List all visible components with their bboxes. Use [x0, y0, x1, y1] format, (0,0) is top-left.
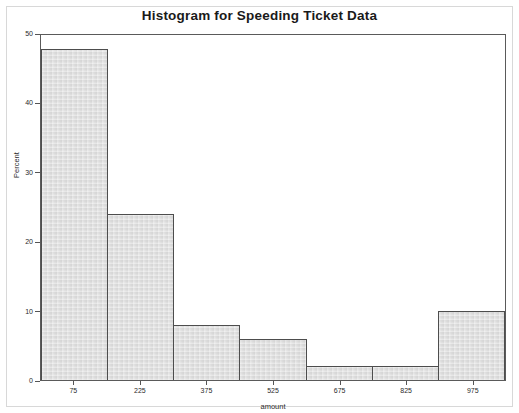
x-tick: 975: [439, 381, 506, 401]
chart-title: Histogram for Speeding Ticket Data: [0, 8, 519, 23]
x-tick-mark: [473, 381, 474, 385]
x-tick: 225: [107, 381, 174, 401]
x-tick: 375: [173, 381, 240, 401]
x-tick: 75: [40, 381, 107, 401]
y-axis: 0 10 20 30 40 50: [0, 34, 40, 381]
x-tick-mark: [140, 381, 141, 385]
y-tick-label: 50: [25, 29, 33, 38]
x-tick-label: 525: [240, 387, 307, 394]
x-tick-label: 975: [439, 387, 506, 394]
x-tick-group: 75 225 375 525 675 825: [40, 381, 506, 401]
histogram-bar: [173, 325, 240, 380]
x-tick-mark: [73, 381, 74, 385]
x-tick-mark: [406, 381, 407, 385]
y-tick-label: 10: [25, 307, 33, 316]
x-tick-mark: [206, 381, 207, 385]
plot-inner: [41, 35, 505, 380]
y-tick-label: 0: [29, 376, 33, 385]
x-tick: 675: [306, 381, 373, 401]
histogram-bars: [41, 35, 505, 380]
x-tick: 825: [373, 381, 440, 401]
histogram-bar: [107, 214, 174, 380]
x-tick-label: 225: [107, 387, 174, 394]
x-tick-label: 375: [173, 387, 240, 394]
y-tick-label: 40: [25, 98, 33, 107]
plot-area: [40, 34, 506, 381]
x-tick: 525: [240, 381, 307, 401]
histogram-bar: [41, 49, 108, 380]
y-tick-label: 30: [25, 168, 33, 177]
x-tick-label: 825: [373, 387, 440, 394]
x-tick-mark: [340, 381, 341, 385]
histogram-figure: Histogram for Speeding Ticket Data 0 10 …: [0, 0, 519, 413]
x-tick-mark: [273, 381, 274, 385]
histogram-bar: [438, 311, 505, 380]
x-axis-title: amount: [40, 402, 506, 411]
x-tick-label: 75: [40, 387, 107, 394]
y-tick-label: 20: [25, 237, 33, 246]
x-axis: 75 225 375 525 675 825: [40, 381, 506, 411]
histogram-bar: [239, 339, 306, 380]
x-tick-label: 675: [306, 387, 373, 394]
histogram-bar: [306, 366, 373, 380]
histogram-bar: [372, 366, 439, 380]
y-axis-title: Percent: [12, 152, 21, 178]
